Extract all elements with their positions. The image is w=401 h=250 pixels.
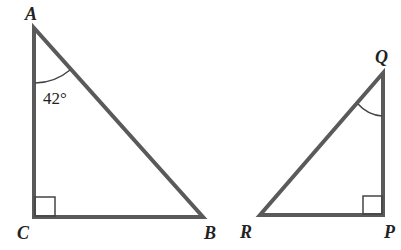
vertex-r-label: R	[239, 222, 252, 242]
angle-arc-a	[35, 70, 70, 83]
vertex-b-label: B	[203, 223, 216, 243]
vertex-p-label: P	[383, 222, 396, 242]
angle-a-label: 42°	[43, 89, 67, 108]
vertex-a-label: A	[24, 4, 37, 24]
vertex-q-label: Q	[375, 47, 388, 67]
right-angle-mark-p	[363, 196, 382, 214]
triangle-pqr	[260, 73, 383, 215]
triangles-diagram: 42° A C B Q R P	[0, 0, 401, 250]
triangle-abc	[34, 28, 203, 217]
right-angle-mark-c	[35, 197, 55, 216]
vertex-c-label: C	[17, 223, 30, 243]
angle-arc-q	[358, 104, 382, 116]
